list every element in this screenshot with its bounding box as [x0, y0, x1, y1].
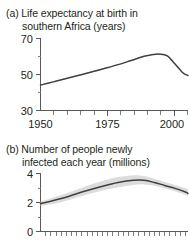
panel-b-caption-line2: infected each year (millions): [0, 156, 190, 169]
panel-a-y-label-50: 50: [21, 69, 33, 81]
panel-a-caption-line2: southern Africa (years): [0, 20, 190, 33]
panel-b-y-label-0: 0: [27, 226, 33, 238]
panel-a-plot: 70 50 30 1950 1975 2000: [0, 32, 190, 132]
panel-b-uncertainty-band: [41, 175, 189, 206]
panel-a-y-label-70: 70: [21, 33, 33, 45]
panel-a-caption-line1: (a) Life expectancy at birth in: [0, 7, 190, 20]
panel-a-y-label-30: 30: [21, 105, 33, 117]
chart-panel-a: (a) Life expectancy at birth in southern…: [0, 0, 190, 138]
panel-b-x-axis: [41, 232, 189, 236]
panel-a-x-label-1975: 1975: [95, 118, 119, 130]
panel-a-caption: (a) Life expectancy at birth in southern…: [0, 0, 190, 32]
panel-a-series-line: [41, 54, 189, 85]
panel-b-y-label-4: 4: [27, 168, 33, 180]
panel-b-y-label-2: 2: [27, 197, 33, 209]
panel-a-svg: 70 50 30 1950 1975 2000: [0, 32, 190, 132]
panel-a-x-label-1950: 1950: [28, 118, 52, 130]
panel-b-svg: 4 2 0: [0, 168, 190, 248]
panel-a-x-label-2000: 2000: [160, 118, 184, 130]
panel-b-plot: 4 2 0: [0, 168, 190, 248]
panel-b-x-minor-ticks: [46, 232, 186, 236]
panel-a-y-axis: 70 50 30: [21, 33, 41, 117]
panel-b-caption: (b) Number of people newly infected each…: [0, 140, 190, 168]
panel-b-y-axis: 4 2 0: [27, 168, 41, 238]
panel-a-x-axis: 1950 1975 2000: [28, 111, 188, 131]
chart-panel-b: (b) Number of people newly infected each…: [0, 140, 190, 251]
panel-b-caption-line1: (b) Number of people newly: [0, 143, 190, 156]
